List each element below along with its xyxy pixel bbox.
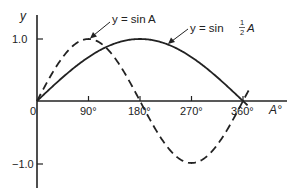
- y-tick-label-1: 1.0: [12, 33, 27, 45]
- origin-label: 0: [30, 105, 36, 117]
- annotation-arrow-sin-half-a: [168, 29, 188, 44]
- x-axis-label: A°: [268, 103, 282, 117]
- sine-chart: y 1.0 −1.0 0 90° 180° 270° 360° A° y = s…: [0, 0, 306, 196]
- x-tick-label-270: 270°: [180, 105, 203, 117]
- annotation-frac-den: 2: [240, 28, 244, 37]
- y-axis-label: y: [19, 9, 27, 23]
- x-tick-label-360: 360°: [231, 105, 254, 117]
- annotation-sin-half-suffix: A: [246, 22, 255, 34]
- annotation-sin-half-prefix: y = sin: [190, 22, 224, 34]
- chart-svg: y 1.0 −1.0 0 90° 180° 270° 360° A° y = s…: [0, 0, 306, 196]
- curve-sin-half-a: [37, 39, 248, 105]
- annotation-frac-num: 1: [240, 18, 244, 27]
- annotation-sin-half-a: y = sin 1 2 A: [190, 18, 255, 37]
- annotation-arrow-sin-a: [90, 22, 110, 39]
- x-tick-label-90: 90°: [80, 105, 97, 117]
- y-tick-label-neg1: −1.0: [12, 158, 34, 170]
- x-tick-label-180: 180°: [128, 105, 151, 117]
- annotation-sin-a: y = sin A: [112, 13, 156, 25]
